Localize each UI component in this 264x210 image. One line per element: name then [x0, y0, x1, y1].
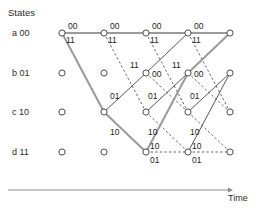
edge-output-label: 11 — [172, 61, 181, 70]
time-axis-label: Time — [228, 193, 248, 203]
edge-output-label: 11 — [150, 36, 159, 45]
trellis-node — [227, 30, 233, 36]
edge-output-label: 10 — [192, 142, 201, 151]
trellis-node — [59, 149, 65, 155]
time-axis — [8, 187, 233, 192]
edge-output-label: 01 — [190, 92, 199, 101]
trellis-node — [185, 149, 191, 155]
trellis-node — [185, 70, 191, 76]
trellis-node — [59, 30, 65, 36]
edge-output-label: 00 — [194, 70, 203, 79]
trellis-node — [143, 30, 149, 36]
edge-layer — [62, 33, 230, 152]
edge-output-label: 10 — [150, 142, 159, 151]
trellis-node — [101, 30, 107, 36]
edge-output-label: 01 — [150, 156, 159, 165]
edge-output-label: 00 — [152, 70, 161, 79]
edge-output-label: 10 — [148, 128, 157, 137]
edge-output-label: 10 — [190, 128, 199, 137]
edge-output-label: 01 — [192, 156, 201, 165]
trellis-node — [227, 149, 233, 155]
time-axis-arrow — [228, 187, 233, 192]
edge-output-label: 00 — [68, 22, 77, 31]
edge-output-label: 11 — [66, 36, 75, 45]
trellis-node — [185, 30, 191, 36]
trellis-node — [59, 109, 65, 115]
edge-output-label: 01 — [110, 92, 119, 101]
edge-output-label: 00 — [194, 22, 203, 31]
edge-output-label: 00 — [152, 22, 161, 31]
trellis-node — [227, 70, 233, 76]
trellis-node — [101, 149, 107, 155]
trellis-node — [101, 70, 107, 76]
trellis-node — [101, 109, 107, 115]
trellis-node — [143, 109, 149, 115]
trellis-figure: States a 00 b 01 c 10 d 11 0011001100110… — [0, 0, 264, 210]
edge-output-label: 10 — [110, 128, 119, 137]
trellis-node — [143, 149, 149, 155]
edge-output-label: 11 — [192, 36, 201, 45]
trellis-canvas — [0, 0, 264, 210]
edge-output-label: 01 — [148, 92, 157, 101]
trellis-node — [143, 70, 149, 76]
edge-output-label: 11 — [130, 61, 139, 70]
node-layer — [59, 30, 233, 155]
trellis-node — [59, 70, 65, 76]
edge-output-label: 00 — [110, 22, 119, 31]
edge-output-label: 11 — [108, 36, 117, 45]
trellis-node — [185, 109, 191, 115]
trellis-node — [227, 109, 233, 115]
